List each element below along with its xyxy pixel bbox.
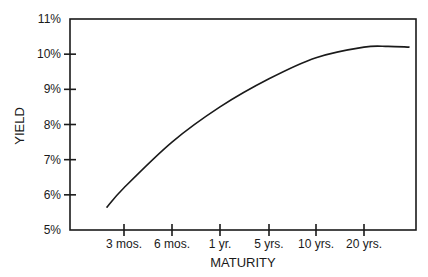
y-tick-label: 5% bbox=[44, 223, 62, 237]
x-tick-label: 20 yrs. bbox=[346, 237, 382, 251]
x-tick-label: 5 yrs. bbox=[254, 237, 283, 251]
chart-canvas: 5%6%7%8%9%10%11% 3 mos.6 mos.1 yr.5 yrs.… bbox=[0, 0, 428, 277]
y-tick-label: 8% bbox=[44, 118, 62, 132]
y-tick-label: 10% bbox=[37, 47, 61, 61]
x-tick-label: 10 yrs. bbox=[298, 237, 334, 251]
x-tick-label: 1 yr. bbox=[209, 237, 232, 251]
plot-border bbox=[70, 19, 416, 230]
x-axis-label: MATURITY bbox=[210, 255, 276, 270]
y-tick-label: 7% bbox=[44, 153, 62, 167]
yield-curve-chart: 5%6%7%8%9%10%11% 3 mos.6 mos.1 yr.5 yrs.… bbox=[0, 0, 428, 277]
plot-frame bbox=[70, 19, 416, 230]
x-axis: 3 mos.6 mos.1 yr.5 yrs.10 yrs.20 yrs. bbox=[106, 224, 382, 251]
x-tick-label: 6 mos. bbox=[154, 237, 190, 251]
y-tick-label: 9% bbox=[44, 82, 62, 96]
y-tick-label: 11% bbox=[38, 12, 61, 26]
yield-curve-line bbox=[107, 46, 409, 207]
y-tick-label: 6% bbox=[44, 188, 62, 202]
x-tick-label: 3 mos. bbox=[106, 237, 142, 251]
y-axis-label: YIELD bbox=[12, 107, 27, 145]
